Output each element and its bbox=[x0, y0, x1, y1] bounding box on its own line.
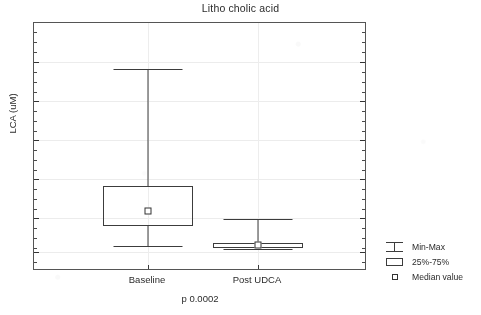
boxplot-baseline bbox=[98, 23, 198, 269]
legend-item-iqr: 25%-75% bbox=[383, 255, 479, 269]
iqr-box bbox=[103, 186, 193, 226]
whisker-stem-lower bbox=[148, 226, 149, 246]
gridline-horizontal bbox=[34, 140, 365, 141]
whisker-cap-min bbox=[114, 246, 183, 247]
whisker-cap-min bbox=[224, 249, 293, 250]
y-axis-label: LCA (uM) bbox=[7, 84, 18, 144]
median-marker bbox=[145, 208, 152, 215]
chart-legend: Min-Max 25%-75% Median value bbox=[383, 240, 479, 285]
small-square-icon bbox=[383, 271, 407, 283]
boxplot-post-udca bbox=[208, 23, 308, 269]
legend-label: Min-Max bbox=[412, 243, 445, 252]
rectangle-icon bbox=[383, 256, 407, 268]
gridline-horizontal bbox=[34, 252, 365, 253]
whisker-stem-upper bbox=[148, 69, 149, 186]
boxplot-figure: Litho cholic acid LCA (uM) bbox=[0, 0, 481, 315]
plot-area bbox=[33, 22, 366, 270]
gridline-horizontal bbox=[34, 179, 365, 180]
p-value-annotation: p 0.0002 bbox=[182, 293, 219, 304]
i-bar-icon bbox=[383, 241, 407, 253]
gridline-horizontal bbox=[34, 62, 365, 63]
page-title: Litho cholic acid bbox=[0, 2, 481, 14]
gridline-horizontal bbox=[34, 101, 365, 102]
legend-item-median: Median value bbox=[383, 270, 479, 284]
x-axis-tick-label-post-udca: Post UDCA bbox=[233, 274, 282, 285]
x-axis-tick-label-baseline: Baseline bbox=[129, 274, 165, 285]
gridline-horizontal bbox=[34, 218, 365, 219]
plot-inner bbox=[34, 23, 365, 269]
median-marker bbox=[255, 242, 262, 249]
legend-item-min-max: Min-Max bbox=[383, 240, 479, 254]
legend-label: Median value bbox=[412, 273, 463, 282]
legend-label: 25%-75% bbox=[412, 258, 449, 267]
